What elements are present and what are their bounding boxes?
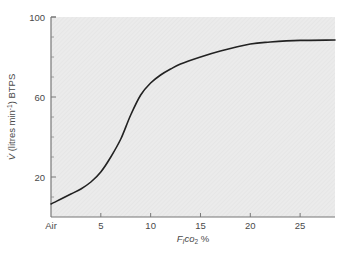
x-axis-label: FIco2 %	[177, 233, 210, 245]
x-tick-label: 20	[245, 220, 256, 231]
x-tick-label: 15	[195, 220, 206, 231]
y-axis-label: V̇ (litres min-1) BTPS	[6, 74, 17, 161]
x-tick-label: Air	[45, 220, 57, 231]
x-tick-label: 25	[295, 220, 306, 231]
y-tick-label: 20	[34, 172, 45, 183]
x-tick-label: 10	[145, 220, 156, 231]
x-tick-label: 5	[98, 220, 103, 231]
y-tick-label: 60	[34, 92, 45, 103]
y-tick-label: 100	[29, 12, 45, 23]
plot-area	[51, 17, 335, 217]
chart: 2060100Air510152025 FIco2 % V̇ (litres m…	[0, 0, 348, 255]
